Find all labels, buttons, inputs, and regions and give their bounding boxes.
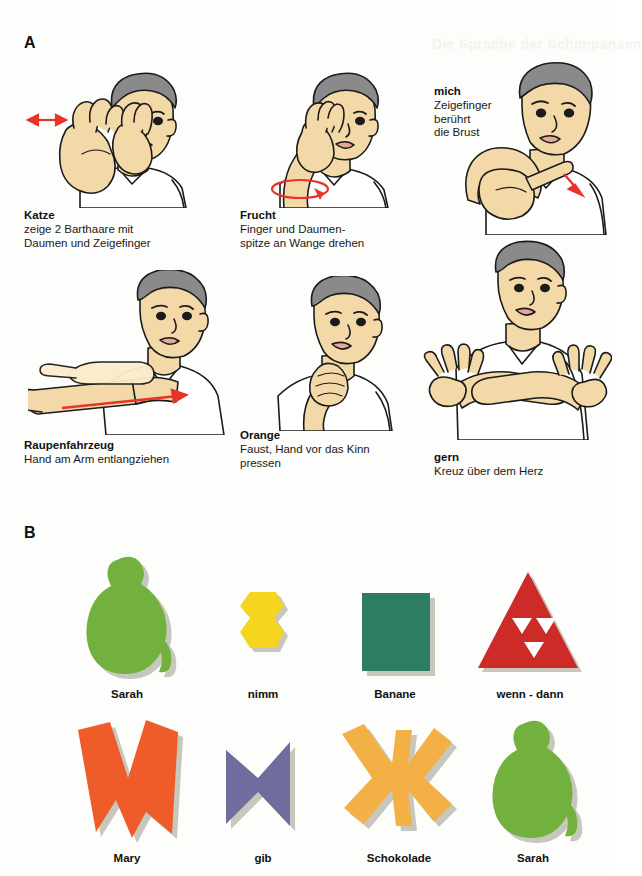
token-label-mary: Mary [52,852,202,864]
token-nimm: nimm [198,550,328,700]
arrow-double-headed [28,115,66,125]
token-shape-mary [52,716,202,844]
illustration-raupenfahrzeug [28,270,243,435]
token-label-gib: gib [198,852,328,864]
caption-raupenfahrzeug: Raupenfahrzeug Hand am Arm entlangziehen [24,438,239,467]
caption-gern: gern Kreuz über dem Herz [434,450,604,479]
panel-a-letter: A [24,34,36,52]
caption-term-raupenfahrzeug: Raupenfahrzeug [24,438,239,452]
token-shape-wenn-dann [460,550,600,680]
token-shape-nimm [198,550,328,680]
caption-term-gern: gern [434,450,604,464]
caption-desc-raupenfahrzeug-line1: Hand am Arm entlangziehen [24,453,239,467]
caption-term-frucht: Frucht [240,208,415,222]
panel-b-letter: B [24,524,36,542]
token-shape-gib [198,716,328,844]
caption-desc-gern-line1: Kreuz über dem Herz [434,465,604,479]
token-banane: Banane [330,550,460,700]
token-schokolade: Schokolade [324,716,474,864]
token-sarah-1: Sarah [62,550,192,700]
caption-katze: Katze zeige 2 Barthaare mit Daumen und Z… [24,208,204,250]
token-sarah-2: Sarah [468,716,598,864]
caption-desc-frucht-line2: spitze an Wange drehen [240,237,415,251]
illustration-orange [240,276,405,431]
token-gib: gib [198,716,328,864]
caption-desc-orange-line1: Faust, Hand vor das Kinn [240,443,415,457]
caption-desc-katze-line1: zeige 2 Barthaare mit [24,223,204,237]
caption-term-orange: Orange [240,428,415,442]
caption-orange: Orange Faust, Hand vor das Kinn pressen [240,428,415,470]
token-shape-schokolade [324,716,474,844]
caption-desc-frucht-line1: Finger und Daumen- [240,223,415,237]
token-shape-banane [330,550,460,680]
illustration-gern [412,240,612,440]
token-label-sarah-2: Sarah [468,852,598,864]
caption-desc-orange-line2: pressen [240,457,415,471]
token-label-sarah-1: Sarah [62,688,192,700]
caption-term-katze: Katze [24,208,204,222]
token-shape-sarah-1 [62,550,192,680]
token-label-nimm: nimm [198,688,328,700]
token-label-wenn-dann: wenn - dann [460,688,600,700]
token-label-banane: Banane [330,688,460,700]
caption-frucht: Frucht Finger und Daumen- spitze an Wang… [240,208,415,250]
token-label-schokolade: Schokolade [324,852,474,864]
illustration-frucht [228,58,418,208]
caption-desc-katze-line2: Daumen und Zeigefinger [24,237,204,251]
illustration-katze [22,58,232,208]
token-shape-sarah-2 [468,716,598,844]
token-wenn-dann: wenn - dann [460,550,600,700]
token-mary: Mary [52,716,202,864]
illustration-mich [430,50,615,235]
